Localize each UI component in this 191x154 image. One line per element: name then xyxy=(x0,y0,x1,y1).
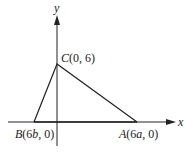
y-axis-arrow-icon xyxy=(54,15,60,25)
point-c-label: C(0, 6) xyxy=(61,51,95,65)
coordinate-diagram: x y C(0, 6) B(6b, 0) A(6a, 0) xyxy=(0,0,191,154)
x-axis-arrow-icon xyxy=(166,119,176,125)
x-axis-label: x xyxy=(177,115,184,129)
point-a-label: A(6a, 0) xyxy=(118,127,158,141)
point-b-label: B(6b, 0) xyxy=(15,127,54,141)
triangle-sides xyxy=(34,64,137,122)
y-axis-label: y xyxy=(53,1,60,15)
